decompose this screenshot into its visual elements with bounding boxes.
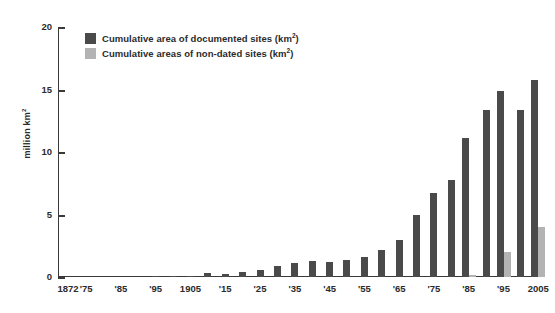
x-tick-label: 2005: [528, 283, 549, 294]
bar-documented: [531, 80, 538, 278]
chart-legend: Cumulative area of documented sites (km2…: [85, 31, 299, 61]
x-tick-label: 1872: [57, 283, 78, 294]
bar-documented: [309, 261, 316, 277]
bar-documented: [361, 257, 368, 277]
bar-non-dated: [469, 275, 476, 278]
x-tick-label: '45: [323, 283, 336, 294]
y-axis-title-text: million km: [22, 112, 32, 159]
bar-documented: [343, 260, 350, 278]
bar-documented: [430, 193, 437, 277]
y-axis-title-superscript: 2: [21, 108, 27, 112]
y-tick-label: 20: [41, 21, 52, 32]
y-tick-label: 15: [41, 84, 52, 95]
y-tick-label: 0: [47, 271, 52, 282]
bar-documented: [326, 262, 333, 277]
x-tick-label: '95: [497, 283, 510, 294]
x-tick-label: '15: [219, 283, 232, 294]
bar-chart: million km2 20151050 1872'75'85'951905'1…: [0, 0, 555, 313]
bar-documented: [239, 272, 246, 277]
x-tick-label: '75: [80, 283, 93, 294]
legend-swatch-documented: [85, 33, 96, 44]
x-tick-label: '95: [149, 283, 162, 294]
plot-area: 20151050 1872'75'85'951905'15'25'35'45'5…: [58, 27, 545, 277]
bar-series-container: [58, 27, 545, 277]
bar-documented: [517, 110, 524, 278]
legend-item-non-dated: Cumulative areas of non-dated sites (km2…: [85, 46, 299, 61]
x-tick-label: 1905: [180, 283, 201, 294]
bar-documented: [274, 266, 281, 277]
bar-documented: [462, 138, 469, 277]
y-axis-title: million km2: [21, 64, 32, 204]
bar-non-dated: [538, 227, 545, 277]
x-tick-label: '35: [288, 283, 301, 294]
bar-documented: [291, 263, 298, 277]
bar-documented: [448, 180, 455, 278]
bar-documented: [497, 91, 504, 277]
x-tick-label: '85: [114, 283, 127, 294]
bar-documented: [413, 215, 420, 278]
x-tick-label: '25: [254, 283, 267, 294]
legend-label-non-dated: Cumulative areas of non-dated sites (km2…: [102, 47, 294, 59]
bar-documented: [396, 240, 403, 278]
bar-documented: [187, 276, 194, 277]
bar-documented: [257, 270, 264, 278]
legend-item-documented: Cumulative area of documented sites (km2…: [85, 31, 299, 46]
bar-documented: [222, 274, 229, 277]
x-tick-label: '75: [428, 283, 441, 294]
x-tick-label: '55: [358, 283, 371, 294]
y-tick-mark: [58, 277, 65, 279]
bar-documented: [170, 276, 177, 277]
bar-documented: [152, 276, 159, 277]
x-tick-label: '65: [393, 283, 406, 294]
bar-documented: [378, 250, 385, 278]
legend-swatch-non-dated: [85, 48, 96, 59]
legend-label-documented: Cumulative area of documented sites (km2…: [102, 32, 299, 44]
bar-documented: [204, 273, 211, 277]
y-tick-label: 5: [47, 209, 52, 220]
x-tick-label: '85: [462, 283, 475, 294]
bar-non-dated: [504, 252, 511, 277]
y-tick-label: 10: [41, 146, 52, 157]
bar-documented: [483, 110, 490, 278]
